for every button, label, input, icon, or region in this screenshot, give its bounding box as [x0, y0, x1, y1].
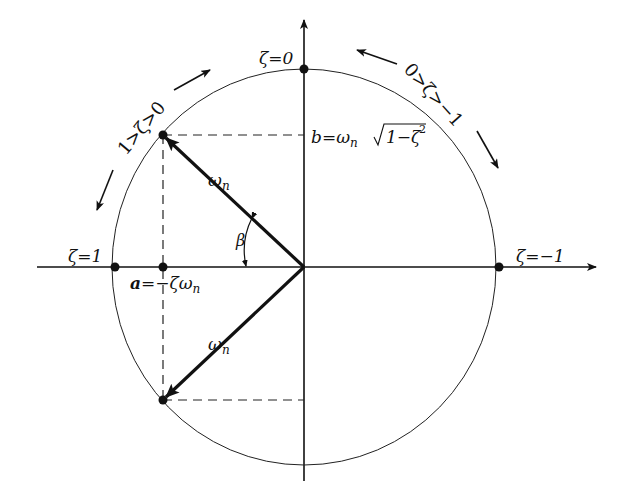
left-range-arrow-up	[174, 70, 210, 90]
left-range-arrow-down	[97, 170, 113, 210]
label-b: b=ωn 1−ζ 2	[311, 123, 426, 150]
point-zeta-one	[111, 263, 120, 272]
label-zeta-zero: ζ=0	[259, 48, 293, 68]
label-right-range: 0>ζ>−1	[400, 59, 468, 131]
s-plane-diagram: ζ=0 ζ=1 ζ=−1 a=−ζωn b=ωn 1−ζ 2 ωn ωn β 1…	[0, 0, 623, 492]
svg-text:b=ωn: b=ωn	[311, 127, 358, 150]
point-zeta-zero	[300, 65, 309, 74]
right-range-arrow-up	[357, 50, 397, 64]
label-lower-vector: ωn	[208, 334, 230, 357]
right-range-arrow-down	[477, 131, 498, 168]
label-beta: β	[235, 231, 245, 250]
upper-pole-vector	[166, 138, 304, 267]
beta-angle-arc	[244, 218, 252, 266]
label-zeta-minus-one: ζ=−1	[516, 246, 565, 266]
range-arrows	[97, 50, 498, 210]
svg-text:1−ζ: 1−ζ	[386, 127, 422, 147]
label-zeta-one: ζ=1	[68, 246, 102, 266]
upper-pole	[159, 131, 168, 140]
label-left-range: 1>ζ>0	[113, 97, 169, 159]
label-a: a=−ζωn	[130, 273, 200, 296]
diagram-canvas: ζ=0 ζ=1 ζ=−1 a=−ζωn b=ωn 1−ζ 2 ωn ωn β 1…	[0, 0, 623, 492]
lower-pole	[159, 396, 168, 405]
point-a	[159, 263, 168, 272]
svg-text:2: 2	[419, 123, 426, 136]
label-upper-vector: ωn	[208, 170, 230, 193]
point-zeta-minus-one	[495, 263, 504, 272]
